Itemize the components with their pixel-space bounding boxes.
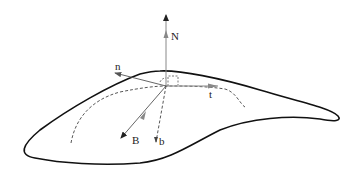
vector-n [115,73,166,86]
label-b: b [159,135,165,147]
label-N: N [171,30,179,42]
vector-b-dashed [156,86,166,142]
surface-outline [24,71,339,164]
label-B: B [132,134,139,146]
angle-arc [160,78,166,82]
binormal-vector-B [121,86,166,138]
diagram-canvas: N n t B b [0,0,360,174]
b-arrowhead [154,137,158,143]
label-n: n [115,60,121,72]
label-t: t [209,88,212,100]
N-arrow-mid [164,30,169,38]
right-angle-marker [168,76,178,86]
